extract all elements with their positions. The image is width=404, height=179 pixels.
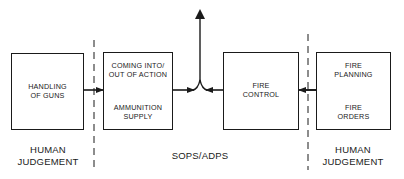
box-coming-into-action: COMING INTO/ OUT OF ACTION AMMUNITION SU… — [103, 52, 173, 130]
fire-control-label: FIRE CONTROL — [224, 81, 298, 99]
arrow-up-head — [195, 9, 205, 19]
zone-label-right: HUMAN JUDGEMENT — [313, 144, 393, 168]
fire-planning-label: FIRE PLANNING — [317, 61, 390, 79]
box-fire-planning: FIRE PLANNING FIRE ORDERS — [316, 52, 391, 130]
box-handling-of-guns: HANDLING OF GUNS — [11, 53, 84, 130]
fire-orders-label: FIRE ORDERS — [317, 103, 390, 121]
zone-label-middle: SOPS/ADPS — [150, 150, 250, 162]
box-fire-control: FIRE CONTROL — [223, 52, 299, 130]
coming-into-action-label: COMING INTO/ OUT OF ACTION — [104, 61, 172, 79]
handling-of-guns-label: HANDLING OF GUNS — [12, 82, 83, 100]
ammunition-supply-label: AMMUNITION SUPPLY — [104, 103, 172, 121]
zone-label-left: HUMAN JUDGEMENT — [8, 144, 88, 168]
